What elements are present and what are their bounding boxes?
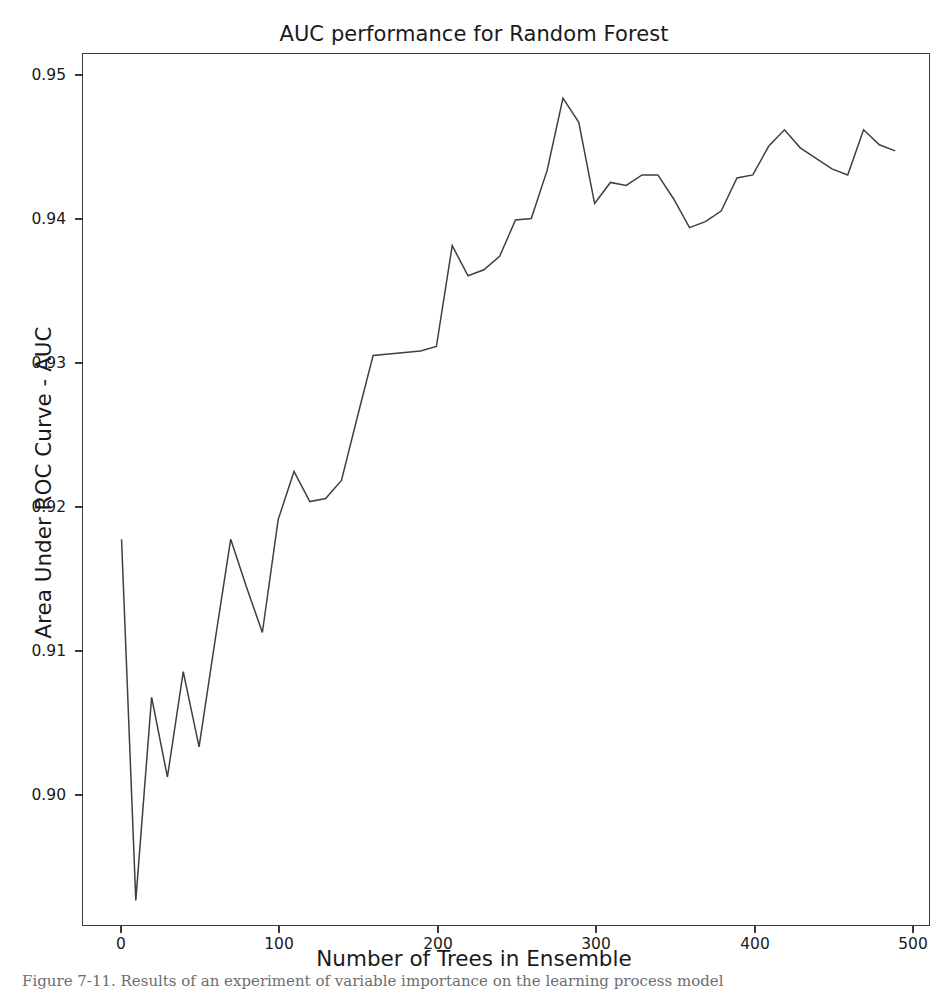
figure-caption: Figure 7-11. Results of an experiment of… xyxy=(22,972,932,990)
xtick-mark-400 xyxy=(754,926,756,933)
ytick-label-0-95: 0.95 xyxy=(8,66,66,84)
auc-series-line xyxy=(122,98,896,900)
ytick-mark-0-90 xyxy=(75,794,82,796)
xtick-mark-200 xyxy=(437,926,439,933)
ytick-mark-0-94 xyxy=(75,218,82,220)
xtick-mark-100 xyxy=(278,926,280,933)
ytick-mark-0-95 xyxy=(75,74,82,76)
ytick-mark-0-93 xyxy=(75,362,82,364)
y-axis-label: Area Under ROC Curve - AUC xyxy=(31,103,56,863)
xtick-mark-300 xyxy=(595,926,597,933)
xtick-mark-500 xyxy=(912,926,914,933)
plot-area xyxy=(82,53,930,926)
ytick-mark-0-92 xyxy=(75,506,82,508)
xtick-mark-0 xyxy=(120,926,122,933)
ytick-mark-0-91 xyxy=(75,650,82,652)
chart-title: AUC performance for Random Forest xyxy=(0,22,948,46)
x-axis-label: Number of Trees in Ensemble xyxy=(0,946,948,971)
figure-canvas: AUC performance for Random Forest 0.95 0… xyxy=(0,0,948,993)
